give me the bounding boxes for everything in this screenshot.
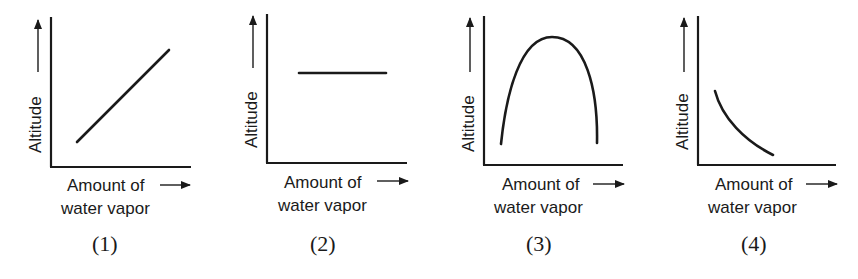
x-axis-label-line1: Amount of <box>67 176 145 195</box>
graph-number: (1) <box>92 231 118 256</box>
x-axis-label-line1: Amount of <box>502 175 580 194</box>
x-axis-label-line2: water vapor <box>707 198 797 217</box>
data-curve <box>501 37 597 144</box>
data-line <box>77 50 169 142</box>
water-vapor-graphs: Altitude Amount of water vapor (1) Altit… <box>0 0 858 279</box>
graph-number: (3) <box>526 231 552 256</box>
graph-2: Altitude Amount of water vapor (2) <box>242 14 408 256</box>
data-curve <box>715 91 773 155</box>
graph-number: (4) <box>741 231 767 256</box>
graph-number: (2) <box>310 231 336 256</box>
graph-1: Altitude Amount of water vapor (1) <box>26 17 191 256</box>
x-axis-label-line2: water vapor <box>60 199 150 218</box>
y-axis-label: Altitude <box>673 93 692 150</box>
y-axis-label: Altitude <box>26 96 45 153</box>
x-axis-label-line2: water vapor <box>493 198 583 217</box>
graph-4: Altitude Amount of water vapor (4) <box>673 16 837 256</box>
y-axis-label: Altitude <box>459 95 478 152</box>
x-axis-label-line1: Amount of <box>715 175 793 194</box>
y-axis-label: Altitude <box>242 91 261 148</box>
x-axis-label-line2: water vapor <box>277 196 367 215</box>
graph-3: Altitude Amount of water vapor (3) <box>459 16 624 256</box>
x-axis-label-line1: Amount of <box>284 173 362 192</box>
